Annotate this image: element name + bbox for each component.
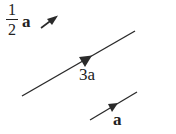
vector-diagram: 1 2 a 3a a bbox=[0, 0, 176, 134]
arrowhead-icon bbox=[47, 16, 58, 26]
half-a-label: a bbox=[22, 13, 31, 30]
fraction-numerator: 1 bbox=[5, 2, 19, 18]
fraction-bar bbox=[6, 19, 18, 20]
a-label: a bbox=[113, 111, 122, 128]
half-a-vector bbox=[41, 16, 58, 29]
three-a-vector bbox=[22, 31, 135, 96]
fraction-denominator: 2 bbox=[5, 22, 19, 38]
half-fraction: 1 2 bbox=[5, 2, 19, 38]
three-a-label: 3a bbox=[79, 66, 95, 83]
